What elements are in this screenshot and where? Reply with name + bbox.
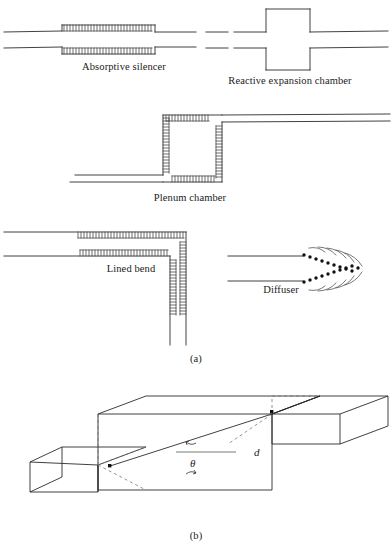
right-slab-front-face [272,414,340,444]
reactive-expansion-chamber-graphic [206,9,388,70]
label-lined-bend: Lined bend [107,264,156,275]
label-plenum-chamber: Plenum chamber [154,193,226,204]
lined-bend-graphic [4,232,186,345]
label-distance-d: d [254,447,260,458]
figure-root: Absorptive silencer Reactive expansion c… [0,0,392,555]
main-block-top-face [98,396,320,414]
plenum-chamber-graphic [70,114,390,182]
caption-panel-b: (b) [190,531,203,542]
label-absorptive-silencer: Absorptive silencer [82,62,166,73]
panel-a-graphics [4,9,390,345]
right-slab-top-face [272,396,388,414]
label-reactive-expansion-chamber: Reactive expansion chamber [228,76,351,87]
label-diffuser: Diffuser [263,285,299,296]
caption-panel-a: (a) [190,354,202,365]
absorptive-silencer-graphic [4,25,196,54]
left-slab-top-face [30,447,146,465]
hidden-edges [98,396,320,490]
panel-b-graphics [30,396,388,492]
label-angle-theta: θ [190,458,195,469]
